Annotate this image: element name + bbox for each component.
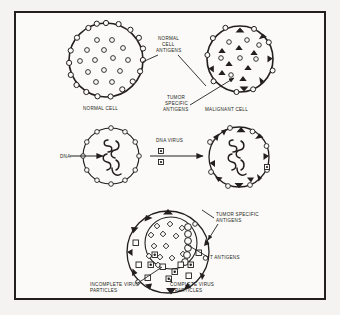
svg-text:INCOMPLETE VIRUS: INCOMPLETE VIRUS [90,282,139,287]
svg-text:ANTIGENS: ANTIGENS [163,107,188,112]
svg-text:DNA VIRUS: DNA VIRUS [156,138,183,143]
svg-text:ANTIGENS: ANTIGENS [216,218,241,223]
svg-text:DNA: DNA [60,154,71,159]
malignant-cell-label: MALIGNANT CELL [205,107,248,112]
svg-text:NORMAL: NORMAL [158,36,179,41]
normal-cell [67,20,146,99]
normal-cell-antigens-label: NORMAL CELL ANTIGENS [143,36,207,86]
malignant-cell [205,25,275,94]
transformed-cell [208,126,270,189]
transformed-cell-virus-particle [265,165,270,170]
dna-helix [103,140,121,175]
svg-text:CELL: CELL [162,42,175,47]
tumor-specific-antigens-bottom-label: TUMOR SPECIFIC ANTIGENS [202,210,259,240]
svg-text:COMPLETE VIRUS: COMPLETE VIRUS [170,282,214,287]
complete-virus-particles-label: COMPLETE VIRUS PARTICLES [170,279,214,293]
dna-virus-transfer: DNA VIRUS [150,138,203,165]
malignant-cell-interior-tumor-antigens [218,45,257,81]
virus-transformation-diagram: NORMAL CELL ANTIGENS NORMAL CELL TUMOR S… [0,0,340,315]
normal-cell-interior-antigens [78,38,131,85]
figure-page: NORMAL CELL ANTIGENS NORMAL CELL TUMOR S… [0,0,340,315]
svg-text:PARTICLES: PARTICLES [175,288,202,293]
svg-text:PARTICLES: PARTICLES [90,288,117,293]
svg-text:TUMOR: TUMOR [167,95,186,100]
svg-text:T ANTIGENS: T ANTIGENS [210,255,240,260]
transformed-cell-dna-helix [228,140,246,175]
t-antigens-label: T ANTIGENS [186,244,240,260]
normal-cell-label: NORMAL CELL [83,106,118,111]
svg-text:SPECIFIC: SPECIFIC [165,101,189,106]
malignant-cell-interior-normal-antigens [219,38,262,78]
svg-text:ANTIGENS: ANTIGENS [156,48,181,53]
svg-text:TUMOR SPECIFIC: TUMOR SPECIFIC [216,212,259,217]
